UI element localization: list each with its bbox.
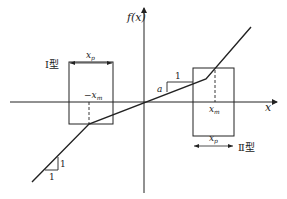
slope-middle-run-label: 1 [175,71,181,81]
box-type-2-width-label: xp [209,133,218,145]
slope-lower-rise-label: 1 [60,159,66,169]
box-type-2-center-label: xm [209,104,220,115]
box-type-1-width-label: xp [86,50,95,62]
box-type-2-label: Ⅱ型 [238,141,255,153]
slope-lower-run-label: 1 [49,172,55,182]
box-type-1-center-label: −xm [84,90,103,101]
slope-triangle-lower [45,157,58,170]
box-type-1-label: Ⅰ型 [45,58,59,70]
slope-middle-rise-label: a [157,84,162,94]
y-axis-label: f(x) [126,11,146,24]
slope-triangle-middle [167,82,193,92]
x-axis-label: x [265,101,272,114]
diagram-canvas: f(x) x Ⅰ型 xp −xm Ⅱ型 xp xm 1 a 1 1 [0,0,287,199]
